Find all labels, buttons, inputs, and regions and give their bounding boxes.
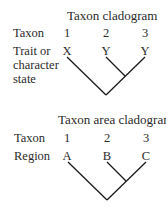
bottom-cladogram-title: Taxon area cladogram xyxy=(58,113,166,127)
region-a: A xyxy=(62,149,71,163)
bottom-taxon-2: 2 xyxy=(104,131,110,145)
cladogram-lines xyxy=(0,0,166,218)
region-label: Region xyxy=(14,149,50,163)
bottom-taxon-1: 1 xyxy=(64,131,70,145)
region-b: B xyxy=(103,149,111,163)
region-c: C xyxy=(142,149,150,163)
bottom-taxon-3: 3 xyxy=(143,131,149,145)
bottom-taxon-label: Taxon xyxy=(14,131,45,145)
